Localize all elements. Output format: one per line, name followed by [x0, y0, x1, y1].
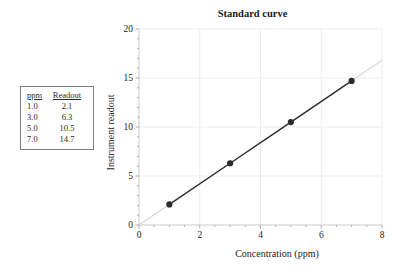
- data-point: [349, 78, 355, 84]
- data-point: [227, 160, 233, 166]
- ticks: [136, 29, 383, 229]
- y-tick-label: 5: [128, 171, 133, 181]
- y-tick-label: 0: [128, 220, 133, 230]
- chart-title: Standard curve: [131, 8, 374, 19]
- y-tick-label: 10: [124, 122, 134, 132]
- y-tick-label: 15: [124, 73, 134, 83]
- x-tick-label: 8: [380, 230, 385, 240]
- gridlines: [139, 29, 382, 225]
- y-tick-label: 20: [124, 24, 134, 34]
- standard-curve-chart: 0246805101520: [0, 0, 405, 278]
- data-point: [288, 119, 294, 125]
- tick-labels: 0246805101520: [124, 24, 385, 240]
- x-tick-label: 2: [197, 230, 202, 240]
- x-tick-label: 0: [137, 230, 142, 240]
- x-tick-label: 6: [319, 230, 324, 240]
- x-tick-label: 4: [258, 230, 263, 240]
- y-axis-label: Instrument readout: [105, 73, 116, 193]
- x-axis-label: Concentration (ppm): [197, 248, 357, 259]
- data-point: [166, 201, 172, 207]
- standard-curve-figure: ppm Readout 1.02.13.06.35.010.57.014.7 0…: [0, 0, 405, 278]
